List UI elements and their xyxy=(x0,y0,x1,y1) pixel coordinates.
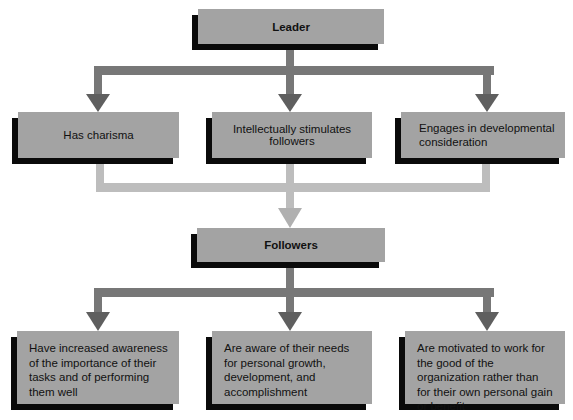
behavior-box-intellectual-stimulation: Intellectually stimulates followers xyxy=(212,112,372,158)
outcome-box-organizational-good: Are motivated to work for the good of th… xyxy=(405,331,565,404)
outcome-label: Have increased awareness of the importan… xyxy=(29,342,168,398)
followers-box: Followers xyxy=(197,228,385,262)
leader-label: Leader xyxy=(272,21,310,33)
outcome-box-awareness: Have increased awareness of the importan… xyxy=(17,331,179,404)
outcome-label: Are aware of their needs for personal gr… xyxy=(224,342,349,398)
arrow-down-icon xyxy=(278,312,302,331)
arrow-down-icon xyxy=(475,312,499,331)
outcome-label: Are motivated to work for the good of th… xyxy=(417,342,553,412)
outcome-box-growth-needs: Are aware of their needs for personal gr… xyxy=(212,331,372,404)
arrow-down-icon xyxy=(278,94,302,112)
leader-box: Leader xyxy=(198,9,384,44)
behavior-box-developmental-consideration: Engages in developmental consideration xyxy=(401,112,565,158)
behavior-box-charisma: Has charisma xyxy=(18,112,179,158)
behavior-label: Intellectually stimulates followers xyxy=(212,123,372,147)
arrow-down-icon xyxy=(86,94,110,112)
behavior-label: Engages in developmental consideration xyxy=(419,121,555,149)
behavior-label: Has charisma xyxy=(63,129,133,141)
arrow-down-icon xyxy=(278,208,302,228)
arrow-down-icon xyxy=(86,312,110,331)
followers-label: Followers xyxy=(264,239,318,251)
arrow-down-icon xyxy=(475,94,499,112)
